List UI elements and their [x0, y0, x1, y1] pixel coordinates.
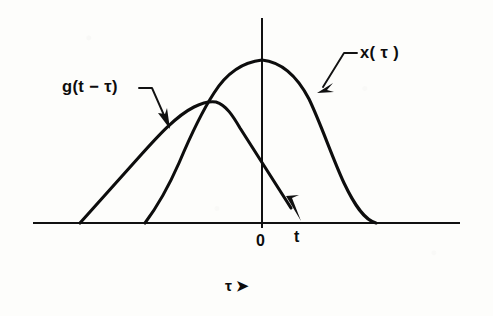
t-terminus-arrowhead: [286, 195, 301, 221]
g-t-minus-tau-curve: [80, 102, 291, 223]
x-curve-label: x( τ ): [360, 43, 399, 62]
x-label-leader-line: [323, 53, 357, 87]
g-label-arrowhead: [158, 108, 170, 129]
g-curve-label: g(t − τ): [62, 77, 118, 96]
tau-axis-label: τ ➤: [225, 277, 250, 295]
tau-axis-symbol: τ: [225, 277, 232, 295]
figure-canvas: [0, 0, 493, 316]
t-marker-label: t: [294, 228, 300, 246]
x-tau-curve: [145, 60, 376, 223]
convolution-figure: g(t − τ) x( τ ) 0 t τ ➤: [0, 0, 493, 316]
origin-label: 0: [256, 232, 265, 250]
tau-axis-arrow-icon: ➤: [236, 278, 249, 293]
